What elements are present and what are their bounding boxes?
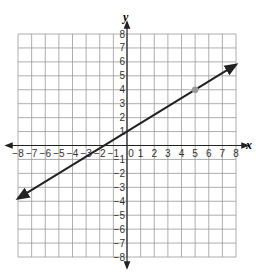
y-tick-label: −8: [114, 252, 126, 263]
x-tick-label: −7: [26, 148, 38, 159]
y-tick-label: −1: [114, 154, 126, 165]
x-tick-label: −6: [40, 148, 52, 159]
x-tick-label: 8: [233, 148, 239, 159]
x-tick-label: 4: [179, 148, 185, 159]
x-tick-label: 5: [192, 148, 198, 159]
x-tick-label: −4: [67, 148, 79, 159]
x-tick-label: 1: [138, 148, 144, 159]
y-tick-label: −3: [114, 182, 126, 193]
x-tick-label: 0: [128, 148, 134, 159]
data-point: [192, 87, 198, 93]
y-tick-label: 3: [119, 98, 125, 109]
y-tick-label: −4: [114, 196, 126, 207]
y-tick-label: −7: [114, 238, 126, 249]
y-tick-label: −2: [114, 168, 126, 179]
y-tick-label: −6: [114, 224, 126, 235]
x-tick-label: −5: [53, 148, 65, 159]
coordinate-plane: −8−7−6−5−4−3−2−1012345678−8−7−6−5−4−3−2−…: [0, 0, 256, 272]
y-tick-label: 4: [119, 84, 125, 95]
y-tick-label: 8: [119, 29, 125, 40]
x-tick-label: 7: [220, 148, 226, 159]
y-tick-label: −5: [114, 210, 126, 221]
y-tick-label: 2: [119, 112, 125, 123]
x-axis-label: x: [246, 138, 252, 153]
y-tick-label: 7: [119, 42, 125, 53]
y-tick-label: 5: [119, 70, 125, 81]
y-axis-label: y: [123, 10, 128, 25]
x-tick-label: 6: [206, 148, 212, 159]
x-tick-label: −8: [12, 148, 24, 159]
x-tick-label: 3: [165, 148, 171, 159]
y-tick-label: 6: [119, 56, 125, 67]
x-tick-label: 2: [151, 148, 157, 159]
